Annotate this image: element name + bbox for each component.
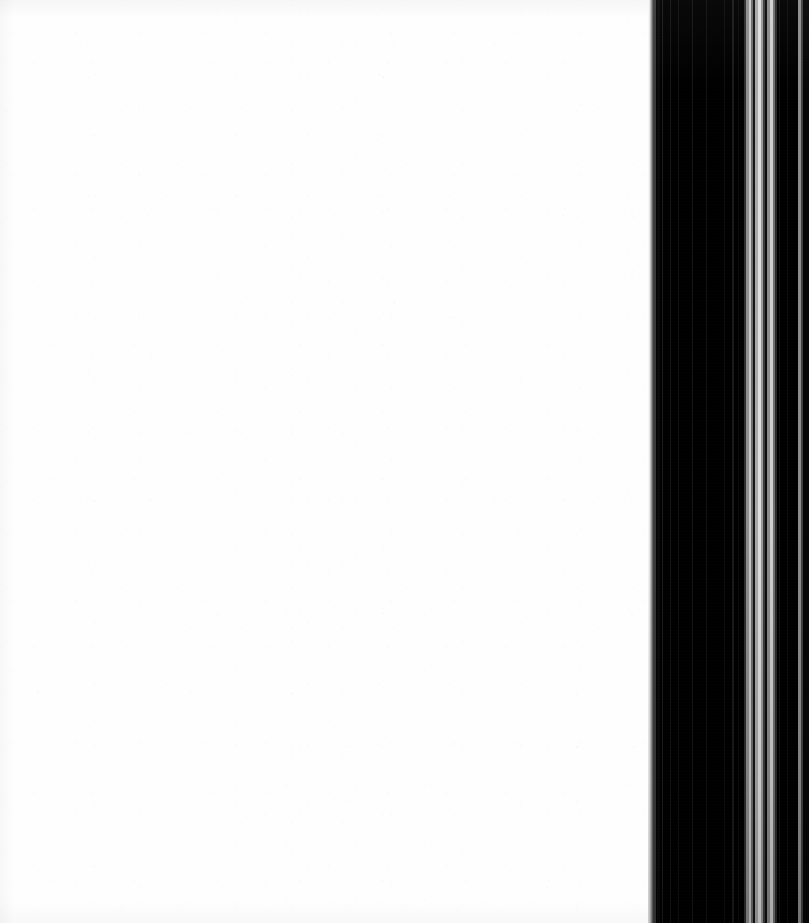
- gutter-stripe-4: [670, 0, 671, 923]
- page-surface: [0, 0, 652, 923]
- gutter-stripe-1: [654, 0, 656, 923]
- page-vignette-bottom: [0, 901, 652, 923]
- paper-grain-texture: [0, 0, 652, 923]
- gutter-stripe-7: [706, 0, 707, 923]
- gutter-luminance-drift: [648, 0, 809, 923]
- gutter-stripe-6: [692, 0, 693, 923]
- gutter-stripe-5: [678, 0, 679, 923]
- gutter-shadow-band: [648, 0, 809, 923]
- page-vignette-top: [0, 0, 652, 18]
- page-vignette-left: [0, 0, 14, 923]
- gutter-stripe-9: [732, 0, 734, 923]
- gutter-scanline-jitter: [648, 0, 809, 923]
- gutter-highlight-n: [775, 0, 777, 923]
- gutter-stripe-3: [662, 0, 663, 923]
- gutter-stripe-10: [738, 0, 739, 923]
- gutter-stripe-8: [724, 0, 725, 923]
- gutter-stripe-11: [779, 0, 780, 923]
- gutter-edge-dark: [803, 0, 809, 923]
- scan-canvas: [0, 0, 809, 923]
- gutter-stripe-12: [787, 0, 788, 923]
- gutter-stripe-2: [657, 0, 660, 923]
